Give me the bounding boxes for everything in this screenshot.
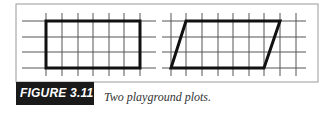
figure-caption: Two playground plots. bbox=[104, 90, 211, 105]
figure-label: FIGURE 3.11 bbox=[16, 82, 94, 105]
